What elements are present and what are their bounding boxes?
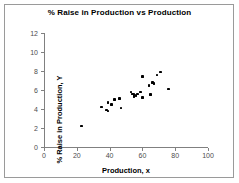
y-tick-label: 0 (10, 144, 38, 151)
x-tick-mark (208, 148, 209, 151)
x-tick-mark (175, 148, 176, 151)
x-tick-label: 40 (98, 152, 122, 159)
scatter-point (148, 84, 151, 87)
x-tick-mark (77, 148, 78, 151)
scatter-point (107, 110, 110, 113)
y-tick-label: 8 (10, 68, 38, 75)
y-axis-title: % Raise in Production, Y (55, 63, 64, 177)
scatter-point (120, 107, 123, 110)
y-tick-label-wrap: 2 (8, 125, 38, 132)
x-tick-mark (44, 148, 45, 151)
scatter-point (149, 93, 152, 96)
plot-area: % Raise in Production, Y (44, 33, 208, 147)
y-tick-label: 2 (10, 125, 38, 132)
x-tick-label: 20 (65, 152, 89, 159)
y-tick-label-wrap: 6 (8, 87, 38, 94)
chart-screenshot: % Raise in Production vs Production 0246… (0, 0, 239, 183)
scatter-point (136, 93, 139, 96)
scatter-point (113, 98, 116, 101)
scatter-point (141, 75, 144, 78)
scatter-point (141, 96, 144, 99)
x-axis-line (44, 147, 208, 148)
x-tick-mark (142, 148, 143, 151)
chart-title: % Raise in Production vs Production (0, 8, 239, 17)
y-tick-label: 10 (10, 49, 38, 56)
scatter-point (80, 125, 83, 128)
x-tick-mark (110, 148, 111, 151)
y-tick-label-wrap: 0 (8, 144, 38, 151)
y-tick-label-wrap: 8 (8, 68, 38, 75)
y-tick-label: 6 (10, 87, 38, 94)
y-tick-label-wrap: 4 (8, 106, 38, 113)
x-tick-label: 80 (163, 152, 187, 159)
scatter-point (100, 106, 103, 109)
scatter-point (110, 103, 113, 106)
scatter-point (139, 91, 142, 94)
scatter-point (118, 97, 121, 100)
scatter-point (153, 82, 156, 85)
scatter-point (107, 101, 110, 104)
scatter-point (156, 74, 159, 77)
y-tick-label-wrap: 12 (8, 30, 38, 37)
x-tick-label: 0 (32, 152, 56, 159)
y-tick-label-wrap: 10 (8, 49, 38, 56)
x-tick-label: 100 (196, 152, 220, 159)
scatter-point (159, 71, 162, 74)
x-axis-title: Production, x (44, 166, 208, 175)
x-tick-label: 60 (130, 152, 154, 159)
y-tick-label: 4 (10, 106, 38, 113)
y-tick-label: 12 (10, 30, 38, 37)
scatter-point (167, 88, 170, 91)
